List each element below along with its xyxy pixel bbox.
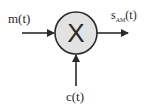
multiplier-symbol: X [67,18,84,48]
multiplier-block: X [55,12,97,54]
output-label-tail: (t) [125,8,136,22]
am-modulator-diagram: m(t) X sAM(t) c(t) [0,0,148,108]
output-label: sAM(t) [111,8,137,23]
carrier-label: c(t) [66,89,84,104]
message-label: m(t) [8,11,30,26]
